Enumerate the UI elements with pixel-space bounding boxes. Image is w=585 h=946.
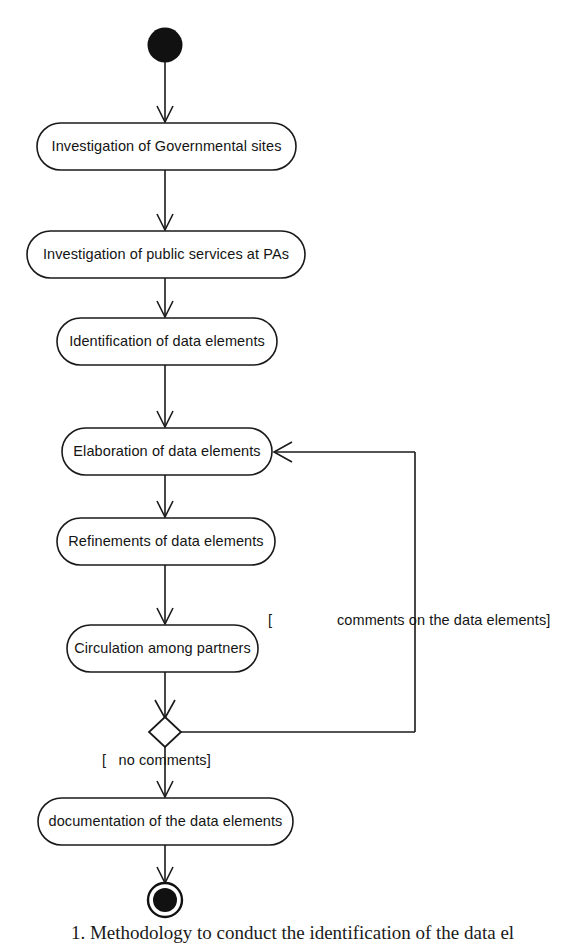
edge-a4-to-a5 xyxy=(157,475,173,517)
edge-start-to-a1 xyxy=(157,62,173,122)
activity-node-a4 xyxy=(62,428,272,475)
edge-a5-to-a6 xyxy=(157,565,173,624)
edge-a7-to-end xyxy=(157,845,173,883)
diagram-canvas xyxy=(0,0,585,946)
guard-label-comments: comments on the data elements] xyxy=(337,613,550,629)
activity-node-a1 xyxy=(37,123,296,170)
edge-a1-to-a2 xyxy=(157,170,173,230)
activity-node-a3 xyxy=(57,318,277,365)
activity-node-a7 xyxy=(38,798,293,845)
activity-diagram: Investigation of Governmental sites Inve… xyxy=(0,0,585,946)
guard-label-no-comments: [ no comments] xyxy=(102,753,211,769)
edge-loop-back-to-a4 xyxy=(181,442,415,732)
guard-label-open-bracket: [ xyxy=(268,613,272,629)
activity-node-a2 xyxy=(27,231,305,278)
edge-a2-to-a3 xyxy=(157,278,173,317)
figure-caption: 1. Methodology to conduct the identifica… xyxy=(0,922,585,944)
edge-a6-to-decision xyxy=(155,672,175,718)
activity-node-a6 xyxy=(67,625,258,672)
final-node xyxy=(148,883,182,917)
initial-node xyxy=(148,28,183,63)
decision-diamond xyxy=(149,717,181,747)
activity-node-a5 xyxy=(57,518,275,565)
edge-a3-to-a4 xyxy=(157,365,173,427)
